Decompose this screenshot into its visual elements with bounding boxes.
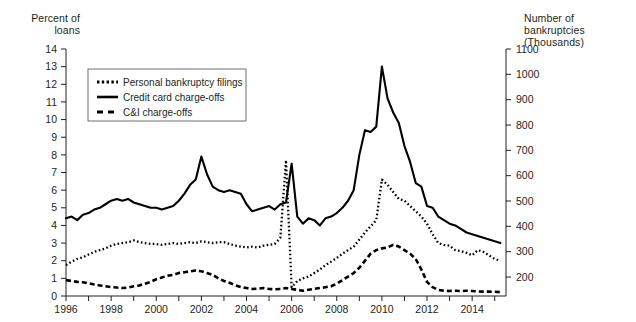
left-axis: 01234567891011121314 <box>45 43 66 302</box>
right-axis-tick-label: 500 <box>516 195 534 207</box>
left-axis-tick-label: 2 <box>51 254 57 266</box>
left-axis-tick-label: 13 <box>45 60 57 72</box>
chart-legend: Personal bankruptcy filingsCredit card c… <box>88 69 246 121</box>
bottom-axis: 1996199820002002200420062008201020122014 <box>54 296 506 315</box>
plot-area: 01234567891011121314 2003004005006007008… <box>0 0 636 322</box>
left-axis-tick-label: 8 <box>51 149 57 161</box>
right-axis-tick-label: 1000 <box>516 68 540 80</box>
left-axis-tick-label: 6 <box>51 184 57 196</box>
right-axis-tick-label: 800 <box>516 119 534 131</box>
bottom-axis-tick-label: 1996 <box>54 303 78 315</box>
right-axis-title: Number of bankruptcies (Thousands) <box>524 12 636 48</box>
left-axis-tick-label: 9 <box>51 131 57 143</box>
left-axis-tick-label: 7 <box>51 166 57 178</box>
bottom-axis-tick-label: 2008 <box>325 303 349 315</box>
right-axis-tick-label: 400 <box>516 220 534 232</box>
left-axis-tick-label: 1 <box>51 272 57 284</box>
right-axis-tick-label: 300 <box>516 245 534 257</box>
left-axis-tick-label: 5 <box>51 201 57 213</box>
bottom-axis-tick-label: 2002 <box>190 303 214 315</box>
right-axis-tick-label: 600 <box>516 169 534 181</box>
bottom-axis-tick-label: 2010 <box>370 303 394 315</box>
bottom-axis-tick-label: 2014 <box>460 303 484 315</box>
right-axis-tick-label: 700 <box>516 144 534 156</box>
legend-label: C&I charge-offs <box>123 107 192 118</box>
left-axis-tick-label: 0 <box>51 290 57 302</box>
left-axis-title: Percent of loans <box>18 12 80 36</box>
left-axis-tick-label: 4 <box>51 219 57 231</box>
series-line-dashed <box>66 245 500 292</box>
series-line-dotted <box>66 160 500 287</box>
right-axis: 20030040050060070080090010001100 <box>506 43 540 296</box>
right-axis-tick-label: 900 <box>516 93 534 105</box>
bottom-axis-tick-label: 2004 <box>235 303 259 315</box>
left-axis-tick-label: 12 <box>45 78 57 90</box>
bottom-axis-tick-label: 2006 <box>280 303 304 315</box>
legend-label: Credit card charge-offs <box>123 92 225 103</box>
bottom-axis-tick-label: 2012 <box>415 303 439 315</box>
left-axis-tick-label: 11 <box>46 96 57 108</box>
legend-label: Personal bankruptcy filings <box>123 77 243 88</box>
left-axis-tick-label: 14 <box>45 43 57 55</box>
bankruptcy-charge-offs-chart: Percent of loans Number of bankruptcies … <box>0 0 636 322</box>
bottom-axis-tick-label: 2000 <box>145 303 169 315</box>
left-axis-tick-label: 10 <box>45 113 57 125</box>
left-axis-tick-label: 3 <box>51 237 57 249</box>
right-axis-tick-label: 200 <box>516 271 534 283</box>
bottom-axis-tick-label: 1998 <box>99 303 123 315</box>
